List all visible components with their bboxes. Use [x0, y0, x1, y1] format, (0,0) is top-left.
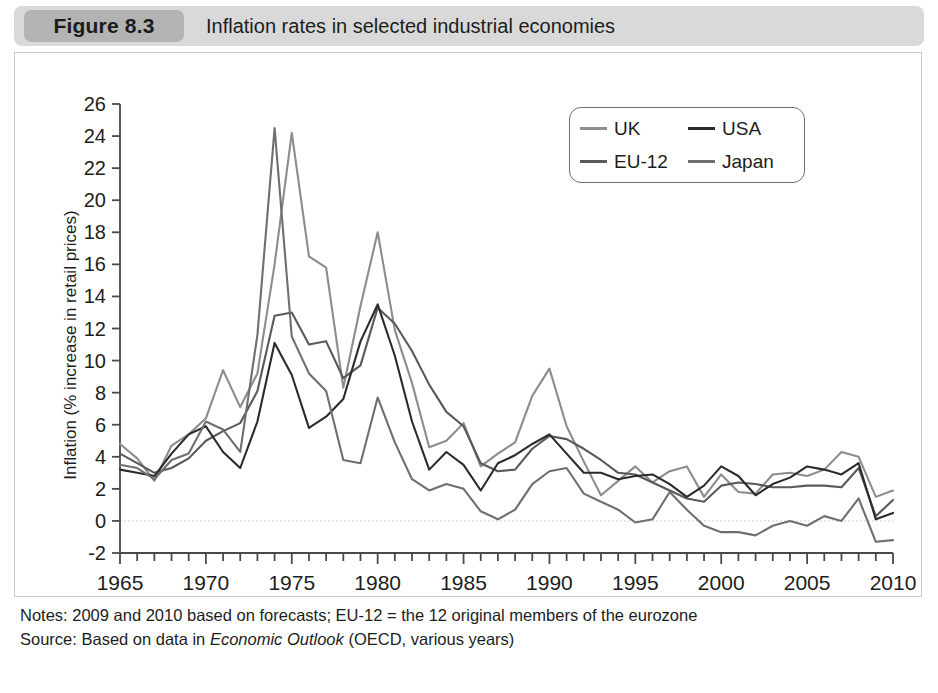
figure-title: Inflation rates in selected industrial e… — [206, 15, 615, 38]
x-tick-label: 1975 — [268, 571, 315, 594]
footnote-source: Source: Based on data in Economic Outloo… — [20, 628, 920, 652]
x-tick-label: 2005 — [784, 571, 831, 594]
footnote-source-prefix: Source: Based on data in — [20, 630, 210, 648]
y-tick-label: 14 — [84, 285, 106, 307]
series-line-eu-12 — [120, 308, 893, 516]
figure-number-badge: Figure 8.3 — [24, 10, 184, 42]
chart-panel: -202468101214161820222426196519701975198… — [14, 52, 922, 597]
y-tick-label: 4 — [95, 446, 106, 468]
x-tick-label: 1970 — [183, 571, 230, 594]
legend-line-swatch-uk — [580, 127, 607, 130]
x-tick-label: 2010 — [870, 571, 917, 594]
legend-line-swatch-japan — [688, 160, 715, 163]
legend-label-usa: USA — [722, 118, 761, 140]
y-tick-label: -2 — [88, 542, 106, 564]
y-tick-label: 26 — [84, 93, 106, 115]
footnote-notes: Notes: 2009 and 2010 based on forecasts;… — [20, 604, 920, 628]
y-tick-label: 8 — [95, 382, 106, 404]
y-tick-label: 22 — [84, 157, 106, 179]
series-line-uk — [120, 133, 893, 497]
series-line-japan — [120, 128, 893, 542]
legend-item-uk: UK — [580, 118, 688, 140]
figure-root: Figure 8.3 Inflation rates in selected i… — [0, 0, 938, 693]
y-tick-label: 24 — [84, 125, 106, 147]
y-tick-label: 6 — [95, 414, 106, 436]
y-tick-label: 16 — [84, 253, 106, 275]
x-tick-label: 1990 — [526, 571, 573, 594]
legend-item-japan: Japan — [688, 151, 796, 173]
legend-line-swatch-usa — [688, 127, 715, 130]
y-tick-label: 2 — [95, 478, 106, 500]
footnote-source-suffix: (OECD, various years) — [344, 630, 515, 648]
y-tick-label: 18 — [84, 221, 106, 243]
legend-item-usa: USA — [688, 118, 796, 140]
y-tick-label: 0 — [95, 510, 106, 532]
x-tick-label: 1965 — [97, 571, 144, 594]
x-tick-label: 1985 — [440, 571, 487, 594]
x-tick-label: 1980 — [354, 571, 401, 594]
figure-header-bar: Figure 8.3 Inflation rates in selected i… — [14, 6, 924, 46]
y-tick-label: 20 — [84, 189, 106, 211]
legend-label-uk: UK — [614, 118, 640, 140]
y-tick-label: 10 — [84, 350, 106, 372]
legend-label-eu12: EU-12 — [614, 151, 668, 173]
figure-footnotes: Notes: 2009 and 2010 based on forecasts;… — [20, 604, 920, 652]
x-tick-label: 2000 — [698, 571, 745, 594]
legend-label-japan: Japan — [722, 151, 774, 173]
y-tick-label: 12 — [84, 318, 106, 340]
legend-line-swatch-eu12 — [580, 160, 607, 163]
chart-legend: UK USA EU-12 Japan — [569, 107, 805, 183]
x-tick-label: 1995 — [612, 571, 659, 594]
legend-item-eu12: EU-12 — [580, 151, 688, 173]
chart-stage: -202468101214161820222426196519701975198… — [15, 53, 923, 598]
footnote-source-publication: Economic Outlook — [210, 630, 344, 648]
